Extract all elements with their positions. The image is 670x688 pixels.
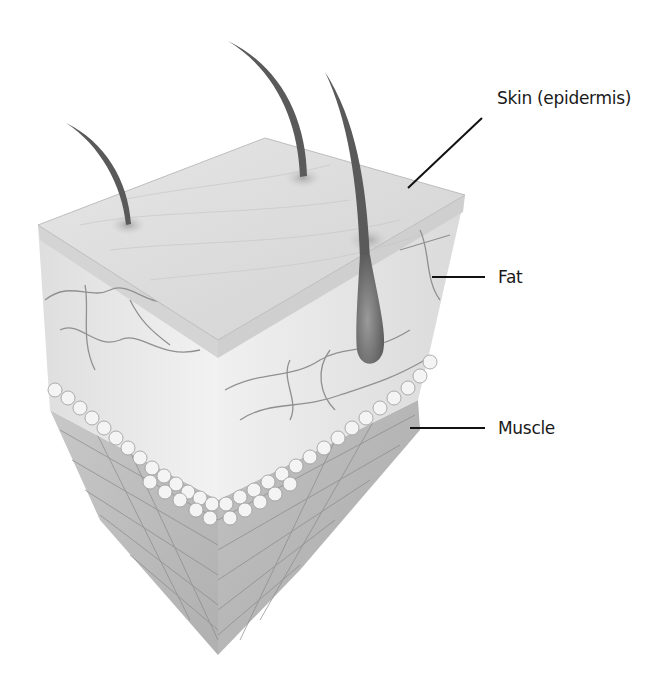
label-fat: Fat <box>498 269 522 286</box>
label-muscle: Muscle <box>498 420 555 437</box>
label-skin-epidermis: Skin (epidermis) <box>497 90 631 107</box>
leader-line-skin <box>408 118 482 188</box>
